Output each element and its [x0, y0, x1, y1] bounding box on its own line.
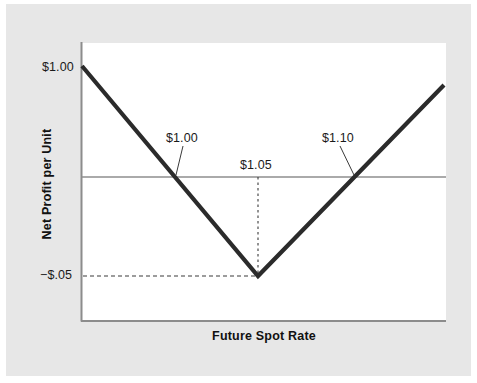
chart-figure: $1.00 −$.05 $1.00 $1.05 $1.10 Net Profit…	[0, 0, 477, 383]
leader-line-left-breakeven	[176, 146, 183, 175]
x-axis-title: Future Spot Rate	[82, 329, 446, 343]
chart-graphics	[0, 0, 477, 383]
annotation-strike-price: $1.05	[240, 158, 272, 172]
y-axis-title: Net Profit per Unit	[40, 104, 54, 264]
leader-line-right-breakeven	[340, 146, 354, 175]
y-axis-tick-label-top: $1.00	[42, 60, 74, 74]
annotation-right-breakeven: $1.10	[322, 131, 354, 145]
y-axis-tick-label-bottom: −$.05	[40, 268, 72, 282]
annotation-left-breakeven: $1.00	[166, 131, 198, 145]
